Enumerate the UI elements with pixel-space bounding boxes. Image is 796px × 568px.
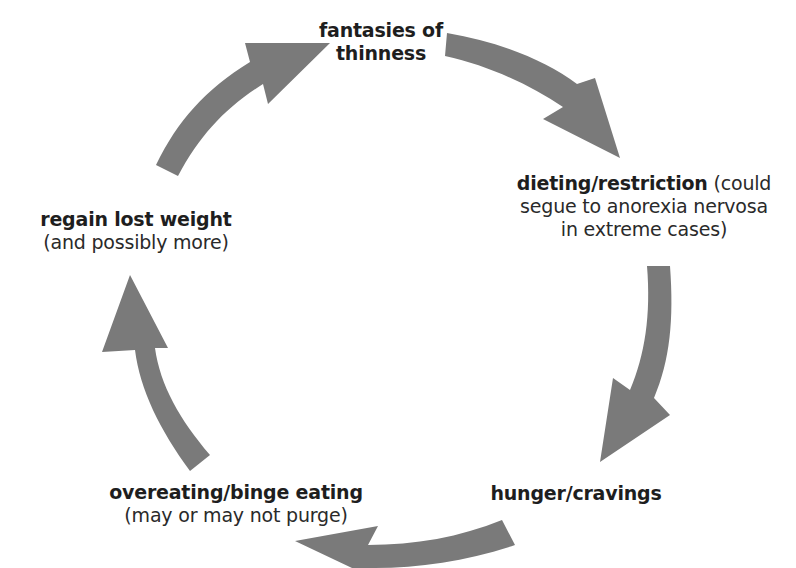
arrow-fantasies-to-dieting (445, 33, 620, 158)
arrow-dieting-to-hunger (600, 266, 671, 462)
node-note: (and possibly more) (18, 231, 254, 254)
node-regain-lost-weight: regain lost weight (and possibly more) (18, 208, 254, 254)
node-title: fantasies of (300, 19, 462, 42)
node-title: hunger/cravings (486, 482, 666, 505)
node-title: overeating/binge eating (96, 481, 376, 504)
node-note-line2: segue to anorexia nervosa (494, 195, 794, 218)
node-overeating-binge-eating: overeating/binge eating (may or may not … (96, 481, 376, 527)
node-title-row: dieting/restriction (could (494, 172, 794, 195)
node-note-inline: (could (708, 172, 772, 194)
node-note-line3: in extreme cases) (494, 218, 794, 241)
arrow-overeating-to-regain (102, 275, 210, 471)
node-hunger-cravings: hunger/cravings (486, 482, 666, 505)
node-title: regain lost weight (18, 208, 254, 231)
node-dieting-restriction: dieting/restriction (could segue to anor… (494, 172, 794, 241)
node-note: (may or may not purge) (96, 504, 376, 527)
arrow-hunger-to-overeating (295, 520, 515, 568)
node-title: dieting/restriction (517, 172, 708, 194)
node-title-line2: thinness (300, 42, 462, 65)
node-fantasies-of-thinness: fantasies of thinness (300, 19, 462, 65)
